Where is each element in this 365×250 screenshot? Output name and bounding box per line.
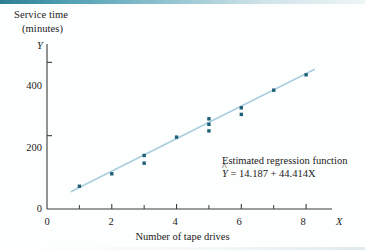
data-point: [240, 113, 243, 116]
data-point: [207, 117, 210, 120]
data-point: [175, 135, 178, 138]
regression-line: [71, 69, 314, 191]
data-point: [142, 161, 145, 164]
data-point: [142, 154, 145, 157]
data-point: [304, 73, 307, 76]
figure-canvas: Service time (minutes) Y X Number of tap…: [0, 0, 365, 250]
data-point: [78, 185, 81, 188]
data-point: [207, 123, 210, 126]
data-point: [110, 172, 113, 175]
plot-area: [0, 0, 365, 250]
data-point: [240, 106, 243, 109]
data-point: [207, 129, 210, 132]
data-point: [272, 89, 275, 92]
